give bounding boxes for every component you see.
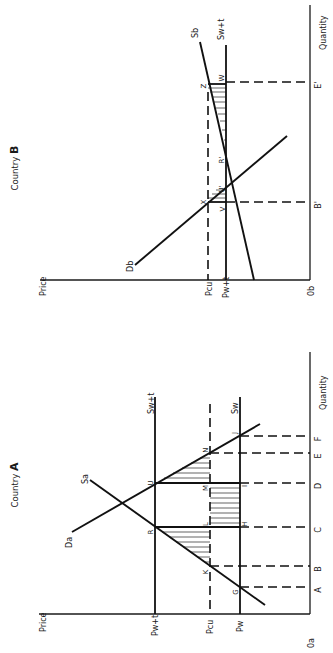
country-b-pwt-label: Pw+t [222, 277, 231, 298]
country-b-tick-e-prime: E' [314, 81, 323, 88]
country-a-pcu-label: Pcu [206, 620, 215, 634]
country-b-demand-curve [135, 136, 287, 265]
country-b-pcu-label: Pcu [205, 282, 214, 296]
point-u-prime: U' [218, 185, 226, 192]
point-l: L [202, 522, 210, 526]
point-u: U [147, 480, 155, 485]
point-x: X [200, 199, 208, 204]
point-n: N [202, 447, 210, 452]
country-a-da-label: Da [65, 537, 74, 548]
point-h: H [241, 521, 249, 526]
country-a-tick-f: F [314, 436, 323, 441]
country-a-pwt-label: Pw+t [151, 615, 160, 636]
point-g: G [232, 589, 240, 594]
country-a-price-label: Price [39, 612, 48, 632]
country-b-origin-label: 0b [307, 286, 316, 296]
country-b-tick-b-prime: B' [314, 201, 323, 209]
point-m: M [202, 485, 210, 491]
country-a-sw-label: Sw [231, 402, 240, 414]
country-a-pw-label: Pw [236, 620, 245, 632]
country-a-sa-label: Sa [81, 474, 90, 484]
country-a-demand-curve [72, 424, 260, 532]
point-i: I [241, 485, 249, 487]
country-b-panel: Country B [8, 5, 328, 298]
point-j: J [231, 432, 239, 435]
country-a-tick-c: C [314, 527, 323, 533]
country-a-title: Country A [8, 462, 21, 507]
country-a-sw-t-label: Sw+t [147, 393, 156, 414]
country-a-supply-curve [90, 480, 265, 605]
country-b-sw-t-label: Sw+t [217, 19, 226, 40]
country-a-panel: Country A [8, 352, 328, 648]
country-b-supply-curve [200, 42, 254, 280]
country-b-price-label: Price [39, 276, 48, 296]
country-a-origin-label: 0a [307, 638, 316, 648]
point-k: K [202, 569, 210, 574]
point-r: R [147, 529, 155, 534]
point-r-prime: R' [218, 157, 226, 164]
country-b-db-label: Db [126, 261, 135, 272]
country-b-title: Country B [8, 146, 21, 191]
customs-union-diagram: Country B [0, 0, 333, 653]
country-a-tick-a: A [314, 587, 323, 593]
country-b-quantity-label: Quantity [319, 15, 328, 50]
country-a-hatch-rectangle [210, 488, 240, 523]
country-a-quantity-label: Quantity [319, 375, 328, 410]
country-a-tick-b: B [314, 566, 323, 572]
point-v: V [219, 206, 227, 211]
country-b-sb-label: Sb [191, 28, 200, 38]
country-a-tick-e: E [314, 453, 323, 458]
country-a-tick-d: D [314, 483, 323, 489]
point-z: Z [200, 83, 208, 88]
point-w: W [218, 74, 226, 81]
